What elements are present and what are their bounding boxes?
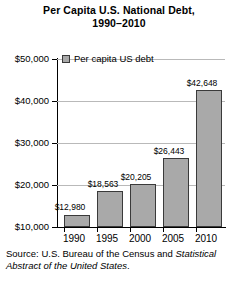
bar-value-2010: $42,648 [177, 79, 227, 88]
x-axis-tick-1 [97, 228, 98, 232]
bar-1990[interactable] [64, 215, 90, 228]
x-axis-tick-2 [130, 228, 131, 232]
legend-swatch-per-capita-us-debt [62, 55, 70, 63]
bar-value-1990: $12,980 [45, 203, 95, 212]
bar-1995[interactable] [97, 191, 123, 227]
y-axis-label-20000: $20,000 [15, 180, 49, 190]
x-axis-label-2010: 2010 [184, 233, 228, 244]
bar-value-2005: $26,443 [144, 147, 194, 156]
x-axis-tick-3 [163, 228, 164, 232]
x-axis-tick-0 [64, 228, 65, 232]
bar-value-2000: $20,205 [111, 173, 161, 182]
chart-legend: Per capita US debt [62, 54, 154, 64]
x-axis-line [57, 227, 226, 228]
y-axis-label-40000: $40,000 [15, 96, 49, 106]
y-axis-label-10000: $10,000 [15, 222, 49, 232]
x-axis-tick-4 [196, 228, 197, 232]
y-axis-label-50000: $50,000 [15, 54, 49, 64]
legend-label-per-capita-us-debt: Per capita US debt [74, 54, 154, 64]
source-note-prefix: Source: U.S. Bureau of the Census and [6, 248, 176, 259]
source-note-suffix: . [127, 260, 130, 271]
bar-2000[interactable] [130, 184, 156, 227]
chart-title: Per Capita U.S. National Debt, 1990–2010 [0, 4, 238, 30]
source-note: Source: U.S. Bureau of the Census and St… [6, 248, 234, 271]
chart-title-line-1: Per Capita U.S. National Debt, [0, 4, 238, 17]
y-axis-label-30000: $30,000 [15, 138, 49, 148]
bar-2010[interactable] [196, 90, 222, 227]
chart-title-line-2: 1990–2010 [0, 17, 238, 30]
chart-figure: Per Capita U.S. National Debt, 1990–2010… [0, 0, 238, 286]
bar-2005[interactable] [163, 158, 189, 227]
